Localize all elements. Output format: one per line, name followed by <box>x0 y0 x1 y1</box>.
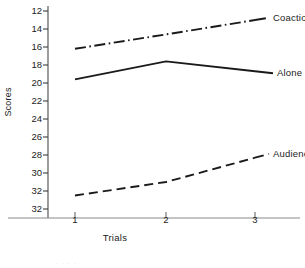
series-leader-audience <box>255 154 269 158</box>
data-series-group <box>75 20 255 196</box>
series-line-alone <box>75 61 255 79</box>
y-axis-ticks <box>43 11 48 209</box>
y-axis-tick-label: 18 <box>16 60 42 70</box>
x-axis-tick-label: 2 <box>156 214 176 225</box>
series-leader-coaction <box>255 18 269 20</box>
series-line-audience <box>75 158 255 196</box>
y-axis-tick-label: 30 <box>16 168 42 178</box>
y-axis-tick-label: 22 <box>16 96 42 106</box>
y-axis-tick-label: 16 <box>16 42 42 52</box>
x-axis-tick-label: 1 <box>65 214 85 225</box>
y-axis-tick-labels: 121416182022242628303232 <box>12 0 42 220</box>
series-label-audience: Audience <box>273 148 305 159</box>
y-axis-tick-label: 28 <box>16 150 42 160</box>
y-axis-tick-label: 32 <box>16 186 42 196</box>
scan-artifact: . . . . <box>56 258 77 265</box>
y-axis-tick-label: 26 <box>16 132 42 142</box>
y-axis-tick-label: 14 <box>16 24 42 34</box>
series-label-alone: Alone <box>277 67 302 78</box>
y-axis-tick-label: 12 <box>16 6 42 16</box>
x-axis-tick-label: 3 <box>245 214 265 225</box>
chart-figure: Scores 121416182022242628303232 123 Tria… <box>0 0 305 268</box>
plot-area <box>0 0 305 268</box>
y-axis-tick-label: 32 <box>16 204 42 214</box>
series-label-coaction: Coaction <box>273 12 305 23</box>
series-leader-alone <box>255 71 273 73</box>
x-axis-title: Trials <box>0 232 230 243</box>
y-axis-tick-label: 20 <box>16 78 42 88</box>
y-axis-tick-label: 24 <box>16 114 42 124</box>
series-leader-lines <box>255 18 273 158</box>
series-line-coaction <box>75 20 255 49</box>
